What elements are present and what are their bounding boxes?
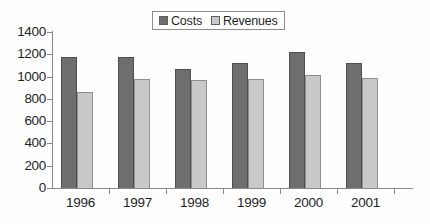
x-axis-line xyxy=(52,188,413,189)
y-axis-tick-label: 400 xyxy=(0,136,46,149)
x-axis-tick-label-1997: 1997 xyxy=(109,196,166,210)
bar-costs-1999 xyxy=(232,63,248,188)
legend-item-revenues: Revenues xyxy=(211,15,278,27)
bar-costs-2000 xyxy=(289,52,305,188)
y-axis-tick-label: 200 xyxy=(0,159,46,172)
bar-revenues-1996 xyxy=(77,92,93,188)
y-axis-tick-label: 800 xyxy=(0,92,46,105)
x-axis-tick-mark xyxy=(109,189,110,194)
legend-label-costs: Costs xyxy=(171,15,202,27)
x-axis-tick-mark xyxy=(280,189,281,194)
x-axis-tick-mark xyxy=(223,189,224,194)
bar-chart: Costs Revenues 1400120010008006004002000… xyxy=(0,0,430,224)
plot-area xyxy=(52,32,413,188)
x-axis-tick-label-1996: 1996 xyxy=(52,196,109,210)
legend-swatch-costs-icon xyxy=(159,16,168,25)
bar-revenues-2000 xyxy=(305,75,321,188)
bar-costs-1997 xyxy=(118,57,134,188)
legend-item-costs: Costs xyxy=(159,15,202,27)
y-axis-tick-label: 0 xyxy=(0,181,46,194)
y-axis-tick-label: 600 xyxy=(0,114,46,127)
bar-costs-2001 xyxy=(346,63,362,188)
legend-label-revenues: Revenues xyxy=(223,15,278,27)
bar-revenues-1999 xyxy=(248,79,264,188)
chart-legend: Costs Revenues xyxy=(152,11,285,30)
legend-swatch-revenues-icon xyxy=(211,16,220,25)
bar-revenues-2001 xyxy=(362,78,378,188)
y-axis-tick-label: 1000 xyxy=(0,70,46,83)
x-axis-tick-label-1998: 1998 xyxy=(166,196,223,210)
y-axis-tick-mark xyxy=(47,188,52,189)
bar-costs-1996 xyxy=(61,57,77,188)
bar-revenues-1998 xyxy=(191,80,207,188)
x-axis-tick-mark xyxy=(166,189,167,194)
bar-costs-1998 xyxy=(175,69,191,188)
bar-revenues-1997 xyxy=(134,79,150,188)
y-axis-tick-label: 1200 xyxy=(0,47,46,60)
y-axis-tick-label: 1400 xyxy=(0,25,46,38)
x-axis-tick-mark xyxy=(394,189,395,194)
x-axis-tick-label-2001: 2001 xyxy=(337,196,394,210)
x-axis-tick-label-1999: 1999 xyxy=(223,196,280,210)
x-axis-tick-mark xyxy=(337,189,338,194)
x-axis-tick-label-2000: 2000 xyxy=(280,196,337,210)
